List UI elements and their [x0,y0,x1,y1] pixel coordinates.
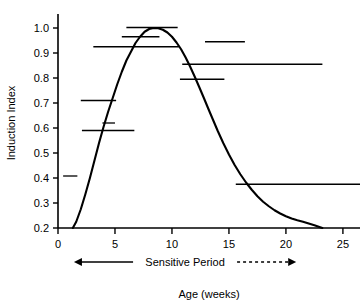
y-tick-label-0.3: 0.3 [34,197,49,209]
y-axis-title: Induction Index [5,85,17,160]
y-tick-label-0.5: 0.5 [34,147,49,159]
sensitive-period-right-arrowhead [288,258,296,266]
chart-figure: 0.20.30.40.50.60.70.80.91.00510152025Age… [0,0,364,308]
y-tick-label-0.4: 0.4 [34,172,49,184]
x-tick-label-5: 5 [112,238,118,250]
induction-index-chart: 0.20.30.40.50.60.70.80.91.00510152025Age… [0,0,364,308]
induction-curve [73,28,323,228]
x-tick-label-20: 20 [280,238,292,250]
y-tick-label-0.2: 0.2 [34,222,49,234]
sensitive-period-left-arrowhead [74,258,82,266]
y-tick-label-0.9: 0.9 [34,47,49,59]
x-tick-label-15: 15 [223,238,235,250]
x-tick-label-10: 10 [166,238,178,250]
y-tick-label-1.0: 1.0 [34,22,49,34]
y-tick-label-0.6: 0.6 [34,122,49,134]
y-tick-label-0.7: 0.7 [34,97,49,109]
y-tick-label-0.8: 0.8 [34,72,49,84]
x-axis-title: Age (weeks) [178,288,239,300]
x-tick-label-25: 25 [337,238,349,250]
sensitive-period-label: Sensitive Period [145,256,225,268]
x-tick-label-0: 0 [55,238,61,250]
